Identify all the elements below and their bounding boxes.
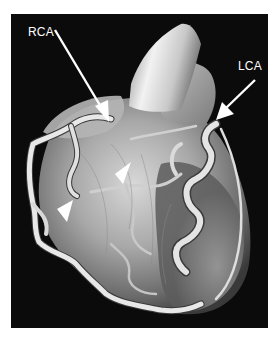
lca-arrow — [216, 80, 255, 120]
heart-rendering — [11, 14, 268, 328]
lca-label: LCA — [238, 60, 262, 72]
rca-label: RCA — [28, 26, 54, 38]
image-frame: RCA LCA — [11, 14, 268, 328]
